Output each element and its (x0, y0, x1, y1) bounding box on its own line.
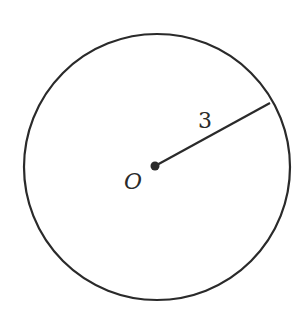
radius-segment (155, 103, 270, 166)
center-point (151, 162, 160, 171)
circle-diagram: O 3 (0, 0, 308, 319)
radius-label: 3 (198, 108, 212, 133)
center-label: O (124, 169, 142, 194)
